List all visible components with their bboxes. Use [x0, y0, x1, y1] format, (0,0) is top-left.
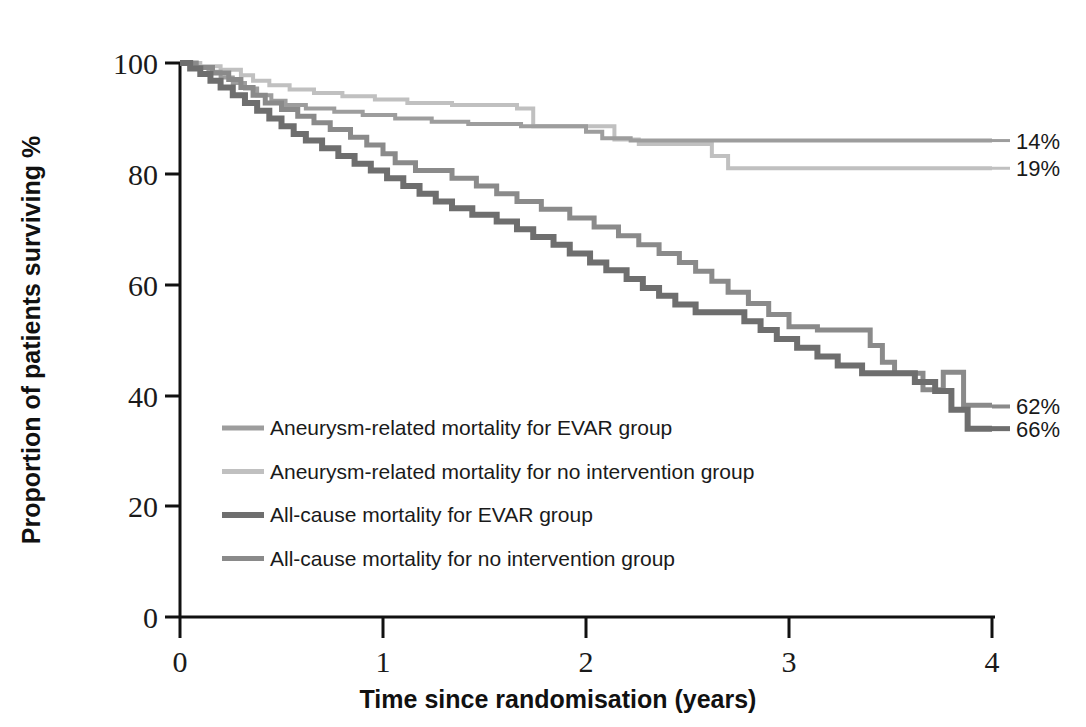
- x-axis-ticks: [180, 617, 992, 638]
- chart-canvas: 100 80 60 40 20 0 0 1 2 3 4 Time since r…: [0, 0, 1086, 727]
- legend-label-0: Aneurysm-related mortality for EVAR grou…: [270, 416, 672, 439]
- y-tick-label-40: 40: [128, 380, 158, 413]
- y-axis-title: Proportion of patients surviving %: [17, 136, 45, 544]
- y-tick-label-20: 20: [128, 490, 158, 523]
- x-tick-label-3: 3: [782, 645, 797, 678]
- x-tick-label-4: 4: [985, 645, 1000, 678]
- x-axis-title: Time since randomisation (years): [360, 685, 757, 713]
- curve-series-3: [180, 63, 992, 405]
- y-tick-label-80: 80: [128, 158, 158, 191]
- y-tick-label-0: 0: [143, 601, 158, 634]
- x-tick-label-1: 1: [376, 645, 391, 678]
- y-tick-label-60: 60: [128, 269, 158, 302]
- x-tick-label-0: 0: [173, 645, 188, 678]
- endpoint-label-66: 66%: [1016, 417, 1060, 442]
- endpoint-label-14: 14%: [1016, 129, 1060, 154]
- endpoint-annotations-group: 14%19%66%62%: [992, 129, 1060, 442]
- chart-legend: Aneurysm-related mortality for EVAR grou…: [222, 416, 754, 570]
- y-tick-label-100: 100: [113, 47, 158, 80]
- endpoint-label-19: 19%: [1016, 156, 1060, 181]
- legend-label-2: All-cause mortality for EVAR group: [270, 503, 593, 526]
- y-axis-ticks: [165, 63, 180, 617]
- legend-label-3: All-cause mortality for no intervention …: [270, 547, 675, 570]
- survival-curves-group: [180, 63, 992, 429]
- survival-chart-figure: 100 80 60 40 20 0 0 1 2 3 4 Time since r…: [0, 0, 1086, 727]
- legend-label-1: Aneurysm-related mortality for no interv…: [270, 460, 754, 483]
- endpoint-label-62: 62%: [1016, 394, 1060, 419]
- curve-series-0: [180, 63, 992, 141]
- x-tick-label-2: 2: [579, 645, 594, 678]
